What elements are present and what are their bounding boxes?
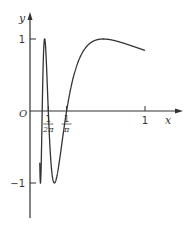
origin-label: O [19,108,27,119]
x-axis [30,109,183,114]
x-axis-label: x [165,114,172,127]
x-axis-arrow-icon [175,109,183,114]
y-tick-label: 1 [19,34,25,45]
x-ticks: 12π1π1 [42,106,148,134]
y-axis-arrow-icon [28,12,33,20]
y-axis-label: y [18,12,26,25]
y-axis [28,12,33,218]
y-tick-label: −1 [10,178,25,189]
x-tick-label: 1 [142,115,148,126]
chart-canvas: y x O 1−1 12π1π1 [0,0,187,229]
x-tick-label-denominator: 2π [42,125,54,134]
